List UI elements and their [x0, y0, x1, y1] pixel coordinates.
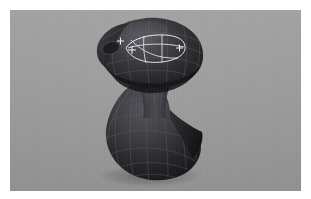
viewport-3d[interactable] [10, 10, 301, 191]
screenshot-root: Perspective Smooth Shaded + Wireframe Fa… [0, 0, 311, 199]
viewport-render[interactable] [10, 10, 301, 191]
